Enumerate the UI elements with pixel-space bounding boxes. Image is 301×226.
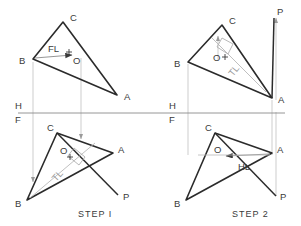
label-o-step1-front: O xyxy=(60,145,67,156)
vertex-label-b-step2-top: B xyxy=(174,58,180,69)
vertex-label-c-step2-top: C xyxy=(229,15,236,26)
vertex-label-c-step1-front: C xyxy=(47,122,54,133)
step-caption-1: STEP I xyxy=(78,209,112,219)
vertex-label-b-step1-top: B xyxy=(19,55,25,66)
fold-label-h-right: H xyxy=(169,100,176,111)
fold-label-f-left: F xyxy=(15,114,21,125)
fold-label-f-right: F xyxy=(169,114,175,125)
vertex-label-p-step2-front: P xyxy=(280,191,286,202)
geometry-drawing-canvas: H F H F FL O A B C TL O A B xyxy=(0,0,301,226)
vertex-label-b-step1-front: B xyxy=(15,198,21,209)
step-caption-2: STEP 2 xyxy=(232,209,269,219)
label-o-step2-front: O xyxy=(214,144,221,155)
vertex-label-b-step2-front: B xyxy=(174,198,180,209)
vertex-label-c-step2-front: C xyxy=(205,122,212,133)
label-o-step1-top: O xyxy=(73,55,80,66)
vertex-label-p-step2-top: P xyxy=(277,6,283,17)
vertex-label-a-step1-front: A xyxy=(118,144,125,155)
vertex-label-p-step1-front: P xyxy=(123,191,129,202)
label-hl-step2: HL xyxy=(238,161,250,172)
drawing-sheet: H F H F FL O A B C TL O A B xyxy=(0,0,301,226)
vertex-label-c-step1-top: C xyxy=(70,12,77,23)
label-o-step2-top: O xyxy=(213,52,220,63)
fold-label-h-left: H xyxy=(15,100,22,111)
vertex-label-a-step2-front: A xyxy=(277,144,284,155)
vertex-label-a-step1-top: A xyxy=(124,91,131,102)
label-fl-step1: FL xyxy=(48,43,59,54)
vertex-label-a-step2-top: A xyxy=(278,94,285,105)
